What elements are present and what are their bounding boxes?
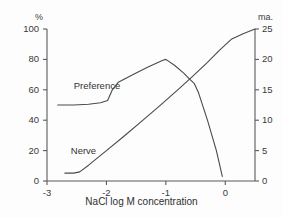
right-axis-unit-label: ma. (258, 12, 273, 22)
left-axis-tick-label: 20 (13, 145, 39, 156)
left-axis-tick-label: 60 (13, 84, 39, 95)
x-axis-title: NaCl log M concentration (0, 196, 283, 207)
chart-plot-area (0, 0, 283, 218)
left-axis-tick-label: 40 (13, 114, 39, 125)
chart-figure: % ma. 020406080100 0510152025 -3-2-10 Pr… (0, 0, 283, 218)
bottom-axis-ticks (47, 181, 225, 185)
right-axis-tick-label: 25 (262, 23, 283, 34)
series-annotation-nerve: Nerve (71, 145, 96, 156)
left-axis-ticks (43, 29, 47, 181)
series-line-preference (58, 59, 223, 176)
left-axis-tick-label: 100 (13, 23, 39, 34)
right-axis-tick-label: 20 (262, 53, 283, 64)
right-axis-tick-label: 15 (262, 84, 283, 95)
series-annotation-preference: Preference (74, 80, 120, 91)
left-axis-tick-label: 80 (13, 53, 39, 64)
right-axis-ticks (255, 29, 259, 181)
right-axis-tick-label: 10 (262, 114, 283, 125)
left-axis-tick-label: 0 (13, 175, 39, 186)
right-axis-tick-label: 5 (262, 145, 283, 156)
left-axis-unit-label: % (35, 12, 43, 22)
right-axis-tick-label: 0 (262, 175, 283, 186)
